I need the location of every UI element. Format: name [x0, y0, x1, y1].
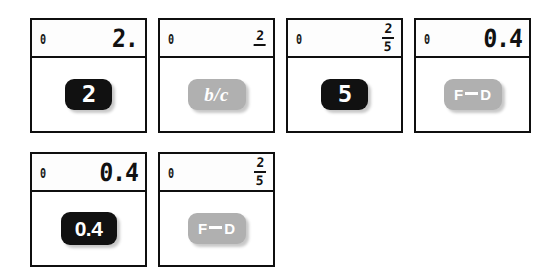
fraction-numerator: 2: [256, 29, 265, 43]
key-label-f: F: [454, 87, 463, 102]
key-area: 2: [32, 58, 145, 131]
key-area: 5: [288, 58, 401, 131]
fraction-denominator: 5: [255, 174, 264, 188]
key-b-over-c[interactable]: b/c: [188, 79, 246, 110]
fraction-bar: [254, 44, 266, 46]
calculator-display: 0 0.4: [32, 154, 145, 192]
key-label: 0.4: [75, 218, 103, 239]
display-fraction: 2 5: [253, 156, 267, 187]
calculator-display: 0 2: [160, 20, 273, 58]
key-zero-point-four[interactable]: 0.4: [61, 212, 117, 245]
display-left-indicator: 0: [168, 165, 174, 180]
key-two[interactable]: 2: [65, 79, 112, 110]
display-main-number: 0.4: [99, 160, 139, 185]
key-five[interactable]: 5: [321, 79, 368, 110]
display-value: 2.: [110, 20, 138, 56]
key-label: b/c: [204, 85, 229, 104]
display-fraction: 2: [254, 29, 267, 47]
display-value: 0.4: [480, 20, 522, 56]
key-area: F D: [160, 192, 273, 265]
calculator-step-panel: 0 0.4 0.4: [30, 152, 147, 267]
calculator-step-panel: 0 2. 2: [30, 18, 147, 133]
display-fraction: 2 5: [381, 22, 395, 53]
left-right-arrow-icon: [465, 92, 478, 95]
calculator-step-panel: 0 0.4 F D: [414, 18, 531, 133]
display-main-number: 2.: [112, 26, 139, 51]
calculator-step-panel: 0 2 5 F D: [158, 152, 275, 267]
key-label-f: F: [198, 221, 207, 236]
display-value: 0.4: [96, 154, 138, 190]
key-label-d: D: [224, 221, 235, 236]
display-value: 2: [254, 20, 266, 56]
key-fraction-decimal[interactable]: F D: [444, 79, 502, 110]
key-fraction-decimal[interactable]: F D: [188, 213, 246, 244]
key-label: 5: [338, 83, 352, 106]
display-left-indicator: 0: [40, 31, 46, 46]
calculator-step-panel: 0 2 5 5: [286, 18, 403, 133]
display-value: 2 5: [254, 154, 266, 190]
calculator-display: 0 2 5: [288, 20, 401, 58]
panel-row-2: 0 0.4 0.4 0 2 5: [30, 152, 275, 267]
calculator-display: 0 2 5: [160, 154, 273, 192]
fraction-denominator: 5: [383, 40, 392, 54]
left-right-arrow-icon: [209, 226, 222, 229]
display-left-indicator: 0: [424, 31, 430, 46]
calculator-step-panel: 0 2 b/c: [158, 18, 275, 133]
display-value: 2 5: [382, 20, 394, 56]
panel-row-1: 0 2. 2 0 2: [30, 18, 531, 133]
calculator-step-sequence: 0 2. 2 0 2: [0, 0, 559, 279]
key-label-d: D: [480, 87, 491, 102]
display-left-indicator: 0: [168, 31, 174, 46]
key-label: 2: [82, 83, 96, 106]
display-main-number: 0.4: [483, 26, 523, 51]
calculator-display: 0 2.: [32, 20, 145, 58]
calculator-display: 0 0.4: [416, 20, 529, 58]
key-area: b/c: [160, 58, 273, 131]
display-left-indicator: 0: [296, 31, 302, 46]
key-area: 0.4: [32, 192, 145, 265]
display-left-indicator: 0: [40, 165, 46, 180]
key-area: F D: [416, 58, 529, 131]
fraction-numerator: 2: [384, 22, 393, 36]
fraction-numerator: 2: [256, 156, 265, 170]
